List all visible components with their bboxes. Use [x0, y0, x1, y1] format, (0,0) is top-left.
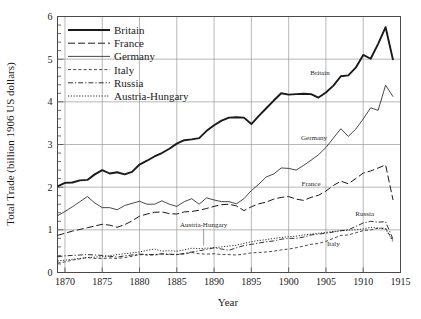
annotation-germany: Germany — [301, 134, 328, 142]
x-tick-label: 1870 — [55, 276, 75, 287]
legend-label-austria-hungary: Austria-Hungary — [114, 90, 189, 102]
x-tick-label: 1885 — [167, 276, 187, 287]
y-tick-label: 1 — [48, 224, 53, 235]
annotation-italy: Italy — [327, 240, 340, 248]
legend-label-britain: Britain — [114, 24, 145, 36]
legend-label-russia: Russia — [114, 77, 143, 89]
annotation-austria-hungary: Austria-Hungary — [180, 221, 228, 229]
x-tick-label: 1900 — [279, 276, 299, 287]
chart-background — [0, 0, 421, 319]
legend-label-germany: Germany — [114, 50, 155, 62]
y-tick-label: 3 — [48, 139, 53, 150]
trade-line-chart: BritainGermanyFranceRussiaItalyAustria-H… — [0, 0, 421, 319]
legend-label-france: France — [114, 37, 144, 49]
x-tick-label: 1895 — [241, 276, 261, 287]
y-tick-label: 2 — [48, 182, 53, 193]
x-tick-label: 1915 — [391, 276, 411, 287]
x-tick-label: 1880 — [130, 276, 150, 287]
x-tick-label: 1875 — [92, 276, 112, 287]
x-axis-title: Year — [218, 296, 239, 308]
legend-label-italy: Italy — [114, 64, 135, 76]
x-tick-label: 1890 — [204, 276, 224, 287]
y-tick-label: 4 — [48, 96, 53, 107]
chart-canvas: BritainGermanyFranceRussiaItalyAustria-H… — [0, 0, 421, 319]
annotation-britain: Britain — [310, 69, 330, 77]
y-tick-label: 5 — [48, 54, 53, 65]
y-tick-label: 0 — [48, 267, 53, 278]
y-tick-label: 6 — [48, 11, 53, 22]
x-tick-label: 1910 — [353, 276, 373, 287]
x-tick-label: 1905 — [316, 276, 336, 287]
annotation-france: France — [301, 180, 320, 188]
y-axis-title: Total Trade (billion 1906 US dollars) — [4, 62, 17, 226]
annotation-russia: Russia — [355, 210, 375, 218]
